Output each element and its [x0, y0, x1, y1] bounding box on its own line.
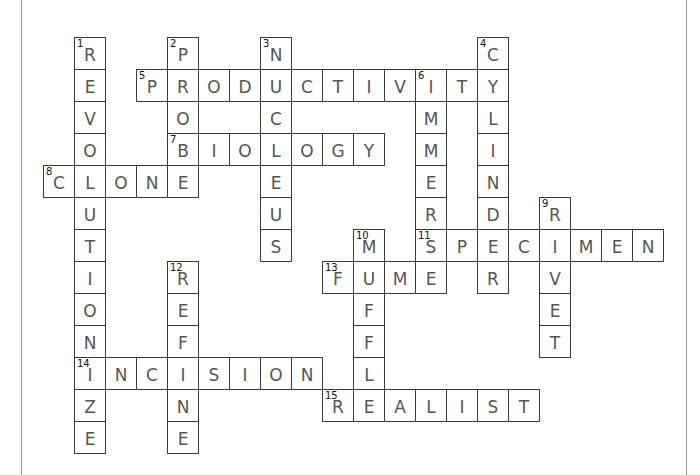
- crossword-cell[interactable]: 14I: [74, 357, 106, 390]
- crossword-cell[interactable]: T: [74, 229, 106, 262]
- crossword-cell[interactable]: C: [508, 229, 540, 262]
- crossword-cell[interactable]: O: [198, 69, 230, 102]
- crossword-cell[interactable]: 3N: [260, 37, 292, 70]
- crossword-cell[interactable]: F: [353, 293, 385, 326]
- crossword-cell[interactable]: N: [291, 357, 323, 390]
- crossword-cell[interactable]: E: [415, 261, 447, 294]
- crossword-cell[interactable]: R: [167, 69, 199, 102]
- crossword-cell[interactable]: R: [477, 261, 509, 294]
- crossword-cell[interactable]: T: [539, 325, 571, 358]
- crossword-cell[interactable]: N: [136, 165, 168, 198]
- crossword-cell[interactable]: U: [260, 197, 292, 230]
- crossword-cell[interactable]: U: [260, 69, 292, 102]
- crossword-cell[interactable]: 10M: [353, 229, 385, 262]
- crossword-cell[interactable]: A: [384, 389, 416, 422]
- crossword-cell[interactable]: 5P: [136, 69, 168, 102]
- crossword-cell[interactable]: O: [105, 165, 137, 198]
- crossword-cell[interactable]: T: [508, 389, 540, 422]
- crossword-cell[interactable]: I: [353, 69, 385, 102]
- crossword-cell[interactable]: 7B: [167, 133, 199, 166]
- crossword-cell[interactable]: P: [446, 229, 478, 262]
- crossword-cell[interactable]: 13F: [322, 261, 354, 294]
- crossword-cell[interactable]: V: [384, 69, 416, 102]
- crossword-cell[interactable]: E: [74, 421, 106, 454]
- cell-letter: R: [416, 205, 446, 225]
- crossword-cell[interactable]: C: [136, 357, 168, 390]
- crossword-cell[interactable]: L: [415, 389, 447, 422]
- crossword-cell[interactable]: 6I: [415, 69, 447, 102]
- crossword-cell[interactable]: N: [167, 389, 199, 422]
- crossword-cell[interactable]: 1R: [74, 37, 106, 70]
- crossword-cell[interactable]: V: [74, 101, 106, 134]
- crossword-cell[interactable]: S: [477, 389, 509, 422]
- crossword-cell[interactable]: S: [198, 357, 230, 390]
- crossword-cell[interactable]: O: [74, 133, 106, 166]
- crossword-cell[interactable]: M: [415, 101, 447, 134]
- crossword-cell[interactable]: N: [74, 325, 106, 358]
- crossword-cell[interactable]: M: [384, 261, 416, 294]
- crossword-cell[interactable]: L: [353, 357, 385, 390]
- crossword-cell[interactable]: I: [539, 229, 571, 262]
- crossword-cell[interactable]: F: [167, 325, 199, 358]
- crossword-cell[interactable]: 4C: [477, 37, 509, 70]
- crossword-cell[interactable]: O: [291, 133, 323, 166]
- crossword-cell[interactable]: R: [415, 197, 447, 230]
- crossword-cell[interactable]: 12R: [167, 261, 199, 294]
- crossword-cell[interactable]: L: [477, 101, 509, 134]
- crossword-cell[interactable]: C: [291, 69, 323, 102]
- crossword-cell[interactable]: E: [601, 229, 633, 262]
- crossword-cell[interactable]: N: [477, 165, 509, 198]
- crossword-cell[interactable]: 8C: [43, 165, 75, 198]
- crossword-cell[interactable]: T: [322, 69, 354, 102]
- crossword-cell[interactable]: Y: [477, 69, 509, 102]
- crossword-cell[interactable]: 11S: [415, 229, 447, 262]
- crossword-cell[interactable]: I: [229, 357, 261, 390]
- cell-letter: V: [540, 269, 570, 289]
- crossword-cell[interactable]: T: [446, 69, 478, 102]
- crossword-cell[interactable]: E: [539, 293, 571, 326]
- crossword-cell[interactable]: C: [260, 101, 292, 134]
- crossword-cell[interactable]: I: [446, 389, 478, 422]
- crossword-cell[interactable]: 9R: [539, 197, 571, 230]
- cell-letter: N: [75, 333, 105, 353]
- crossword-cell[interactable]: O: [167, 101, 199, 134]
- crossword-cell[interactable]: D: [229, 69, 261, 102]
- crossword-cell[interactable]: M: [570, 229, 602, 262]
- crossword-cell[interactable]: M: [415, 133, 447, 166]
- crossword-cell[interactable]: O: [260, 357, 292, 390]
- cell-letter: B: [168, 141, 198, 161]
- cell-letter: N: [292, 365, 322, 385]
- crossword-cell[interactable]: N: [105, 357, 137, 390]
- crossword-cell[interactable]: U: [353, 261, 385, 294]
- crossword-cell[interactable]: G: [322, 133, 354, 166]
- crossword-cell[interactable]: E: [477, 229, 509, 262]
- crossword-cell[interactable]: I: [198, 133, 230, 166]
- crossword-cell[interactable]: 2P: [167, 37, 199, 70]
- crossword-cell[interactable]: I: [477, 133, 509, 166]
- cell-letter: S: [261, 237, 291, 257]
- crossword-cell[interactable]: Z: [74, 389, 106, 422]
- crossword-cell[interactable]: E: [167, 165, 199, 198]
- crossword-cell[interactable]: U: [74, 197, 106, 230]
- crossword-cell[interactable]: E: [260, 165, 292, 198]
- crossword-cell[interactable]: E: [167, 293, 199, 326]
- crossword-cell[interactable]: D: [477, 197, 509, 230]
- crossword-cell[interactable]: I: [74, 261, 106, 294]
- crossword-cell[interactable]: O: [229, 133, 261, 166]
- crossword-cell[interactable]: E: [415, 165, 447, 198]
- crossword-cell[interactable]: O: [74, 293, 106, 326]
- crossword-cell[interactable]: V: [539, 261, 571, 294]
- cell-letter: C: [137, 365, 167, 385]
- crossword-cell[interactable]: E: [167, 421, 199, 454]
- crossword-cell[interactable]: E: [353, 389, 385, 422]
- crossword-cell[interactable]: I: [167, 357, 199, 390]
- crossword-cell[interactable]: L: [74, 165, 106, 198]
- crossword-cell[interactable]: N: [632, 229, 664, 262]
- cell-letter: O: [292, 141, 322, 161]
- crossword-cell[interactable]: F: [353, 325, 385, 358]
- crossword-cell[interactable]: Y: [353, 133, 385, 166]
- crossword-cell[interactable]: S: [260, 229, 292, 262]
- crossword-cell[interactable]: E: [74, 69, 106, 102]
- crossword-cell[interactable]: 15R: [322, 389, 354, 422]
- crossword-cell[interactable]: L: [260, 133, 292, 166]
